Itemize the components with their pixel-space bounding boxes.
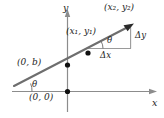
label-point-2: (x₂, y₂) — [104, 3, 134, 12]
point-origin — [65, 89, 70, 94]
sloped-line-arrowhead — [124, 24, 135, 32]
point-y-intercept — [65, 62, 70, 67]
label-y-axis: y — [63, 3, 68, 13]
x-axis-arrowhead — [149, 89, 157, 94]
label-x-axis: x — [152, 98, 157, 108]
label-origin: (0, 0) — [29, 93, 53, 102]
label-theta-upper: θ — [107, 36, 112, 45]
label-y-intercept: (0, b) — [17, 58, 41, 67]
theta-arc-upper — [101, 41, 103, 48]
label-delta-y: Δy — [135, 31, 146, 40]
label-delta-x: Δx — [100, 51, 111, 60]
point-x1-y1 — [85, 50, 90, 55]
label-theta-lower: θ — [32, 80, 37, 89]
slope-diagram-figure: (x₂, y₂) (x₁, y₁) (0, b) (0, 0) Δy Δx θ … — [0, 0, 164, 118]
label-point-1: (x₁, y₁) — [66, 27, 96, 36]
y-axis — [65, 9, 70, 112]
